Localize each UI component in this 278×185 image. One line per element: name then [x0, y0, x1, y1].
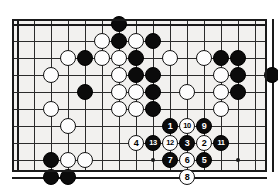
move-number-label: 2 — [202, 139, 207, 148]
star-point — [151, 158, 155, 162]
black-stone — [111, 33, 127, 49]
black-stone — [128, 50, 144, 66]
white-stone — [128, 33, 144, 49]
white-stone — [77, 152, 93, 168]
move-number-label: 8 — [185, 173, 190, 182]
white-stone — [94, 50, 110, 66]
white-stone — [196, 50, 212, 66]
move-stone-11: 11 — [213, 135, 229, 151]
black-stone — [264, 67, 278, 83]
move-number-label: 11 — [218, 139, 225, 147]
black-stone — [128, 67, 144, 83]
black-stone — [230, 50, 246, 66]
white-stone — [213, 101, 229, 117]
move-number-label: 7 — [168, 156, 173, 165]
white-stone — [43, 101, 59, 117]
white-stone — [128, 101, 144, 117]
star-point — [236, 158, 240, 162]
move-number-label: 10 — [183, 122, 190, 130]
move-stone-7: 7 — [162, 152, 178, 168]
move-stone-8: 8 — [179, 169, 195, 185]
black-stone — [77, 50, 93, 66]
move-stone-12: 12 — [162, 135, 178, 151]
black-stone — [145, 33, 161, 49]
black-stone — [230, 84, 246, 100]
black-stone — [145, 67, 161, 83]
move-stone-2: 2 — [196, 135, 212, 151]
move-stone-6: 6 — [179, 152, 195, 168]
move-stone-4: 4 — [128, 135, 144, 151]
black-stone — [145, 84, 161, 100]
white-stone — [213, 67, 229, 83]
move-number-label: 3 — [185, 139, 190, 148]
black-stone — [213, 50, 229, 66]
move-stone-10: 10 — [179, 118, 195, 134]
white-stone — [60, 118, 76, 134]
white-stone — [111, 50, 127, 66]
grid-line-vertical — [272, 19, 274, 172]
go-board[interactable]: 12345678910111213 — [12, 19, 267, 172]
black-stone — [145, 101, 161, 117]
move-stone-5: 5 — [196, 152, 212, 168]
move-number-label: 9 — [202, 122, 207, 131]
black-stone — [43, 169, 59, 185]
move-number-label: 13 — [149, 139, 156, 147]
grid-line-horizontal — [12, 24, 267, 26]
white-stone — [213, 84, 229, 100]
white-stone — [179, 84, 195, 100]
white-stone — [60, 50, 76, 66]
black-stone — [60, 169, 76, 185]
black-stone — [111, 16, 127, 32]
grid-line-horizontal — [12, 126, 267, 127]
white-stone — [111, 67, 127, 83]
move-number-label: 5 — [202, 156, 207, 165]
white-stone — [43, 67, 59, 83]
black-stone — [77, 84, 93, 100]
black-stone — [43, 152, 59, 168]
move-stone-9: 9 — [196, 118, 212, 134]
move-number-label: 1 — [168, 122, 173, 131]
move-stone-13: 13 — [145, 135, 161, 151]
white-stone — [60, 152, 76, 168]
move-stone-1: 1 — [162, 118, 178, 134]
white-stone — [128, 84, 144, 100]
move-number-label: 4 — [134, 139, 139, 148]
black-stone — [230, 67, 246, 83]
white-stone — [162, 50, 178, 66]
go-diagram-screenshot: 12345678910111213 — [0, 0, 278, 185]
move-number-label: 6 — [185, 156, 190, 165]
white-stone — [111, 101, 127, 117]
white-stone — [111, 84, 127, 100]
white-stone — [94, 33, 110, 49]
move-stone-3: 3 — [179, 135, 195, 151]
move-number-label: 12 — [166, 139, 173, 147]
